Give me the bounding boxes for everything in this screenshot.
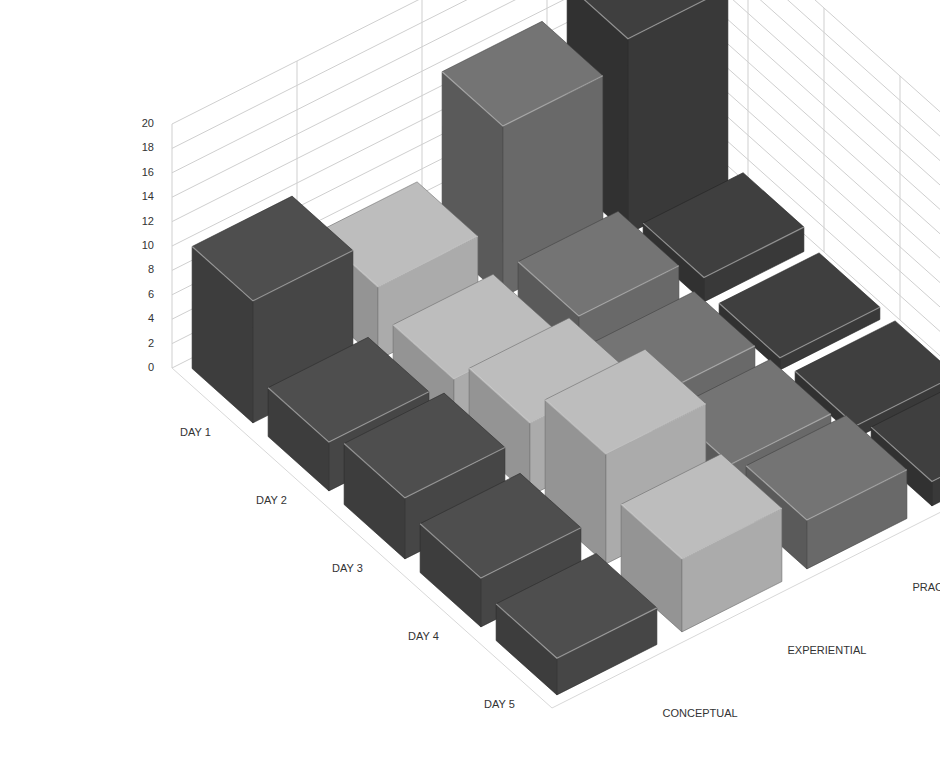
y-tick-label: 14 bbox=[130, 190, 154, 202]
chart-bars bbox=[192, 0, 940, 695]
x-category-label: DAY 4 bbox=[408, 630, 439, 642]
series-label: CONCEPTUAL bbox=[663, 707, 738, 719]
x-category-label: DAY 2 bbox=[256, 494, 287, 506]
y-tick-label: 12 bbox=[130, 215, 154, 227]
y-tick-label: 6 bbox=[130, 288, 154, 300]
y-tick-label: 20 bbox=[130, 117, 154, 129]
y-tick-label: 0 bbox=[130, 361, 154, 373]
y-tick-label: 8 bbox=[130, 263, 154, 275]
x-category-label: DAY 5 bbox=[484, 698, 515, 710]
series-label: PRACTICAL bbox=[913, 581, 940, 593]
x-category-label: DAY 3 bbox=[332, 562, 363, 574]
y-tick-label: 4 bbox=[130, 312, 154, 324]
series-label: EXPERIENTIAL bbox=[788, 644, 867, 656]
x-category-label: DAY 1 bbox=[180, 426, 211, 438]
y-tick-label: 2 bbox=[130, 337, 154, 349]
y-tick-label: 10 bbox=[130, 239, 154, 251]
y-tick-label: 18 bbox=[130, 141, 154, 153]
y-tick-label: 16 bbox=[130, 166, 154, 178]
